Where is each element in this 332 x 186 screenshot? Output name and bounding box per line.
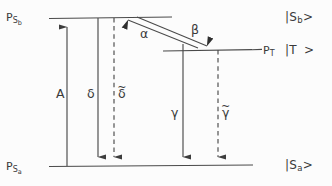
ket-label-sa: |Sa> xyxy=(285,159,313,173)
level-label-p-sa: PSa xyxy=(6,161,22,176)
tilde-mark-delta: ~ xyxy=(117,82,126,93)
rate-label-delta: δ xyxy=(87,88,95,101)
level-label-p-t-sub: T xyxy=(270,49,275,58)
ket-label-sb-close: > xyxy=(303,10,313,24)
level-line-sb xyxy=(49,17,172,19)
rate-label-gamma-tilde: ~ γ xyxy=(222,107,229,120)
level-label-p-sb-subsub: b xyxy=(18,19,22,27)
ket-label-t-open: |T xyxy=(285,43,297,57)
level-line-t xyxy=(163,50,252,51)
rate-label-gamma: γ xyxy=(171,107,178,120)
transition-arrow-alpha xyxy=(128,20,198,48)
level-label-p-sb-base: P xyxy=(6,11,13,24)
energy-level-diagram: PSb PSa PT |Sb> |T> |Sa> A δ ~ δ γ ~ γ α… xyxy=(0,0,332,186)
level-line-group xyxy=(49,17,253,167)
level-label-p-sa-subsub: a xyxy=(18,168,22,176)
level-label-p-t-base: P xyxy=(263,44,270,57)
rate-label-beta: β xyxy=(191,24,199,37)
ket-label-sb: |Sb> xyxy=(285,11,313,25)
ket-label-sa-open: |S xyxy=(285,158,297,172)
rate-label-alpha: α xyxy=(140,28,148,41)
ket-label-sb-open: |S xyxy=(285,10,297,24)
rate-label-delta-tilde: ~ δ xyxy=(118,88,126,101)
level-label-p-sb: PSb xyxy=(6,12,22,27)
ket-label-t: |T> xyxy=(285,44,314,56)
rate-label-A: A xyxy=(56,88,65,101)
ket-label-t-close: > xyxy=(304,43,314,57)
level-label-p-sa-base: P xyxy=(6,160,13,173)
level-line-sa xyxy=(49,165,253,167)
ket-label-sa-close: > xyxy=(303,158,313,172)
diagram-canvas xyxy=(0,0,332,186)
level-label-p-t: PT xyxy=(263,45,275,58)
tilde-mark-gamma: ~ xyxy=(221,101,230,112)
